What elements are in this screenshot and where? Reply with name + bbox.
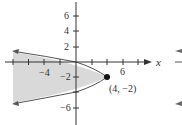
x-axis-label: x (155, 56, 161, 68)
ytick-label-neg2: −2 (60, 71, 71, 82)
x-axis-arrow-icon (144, 59, 152, 65)
xtick-label-6: 6 (120, 66, 125, 77)
graph: −4 6 6 4 2 −2 −6 x (4, −2) (0, 0, 182, 125)
edge-arrow-lower-icon (175, 101, 182, 106)
ytick-label-neg6: −6 (60, 102, 71, 113)
ytick-label-6: 6 (64, 10, 69, 21)
xtick-label-neg4: −4 (39, 67, 50, 78)
vertex-label: (4, −2) (109, 83, 136, 95)
ytick-label-4: 4 (64, 25, 69, 36)
ytick-label-2: 2 (64, 41, 69, 52)
edge-arrow-upper-icon (175, 49, 182, 53)
vertex-point (104, 74, 110, 80)
